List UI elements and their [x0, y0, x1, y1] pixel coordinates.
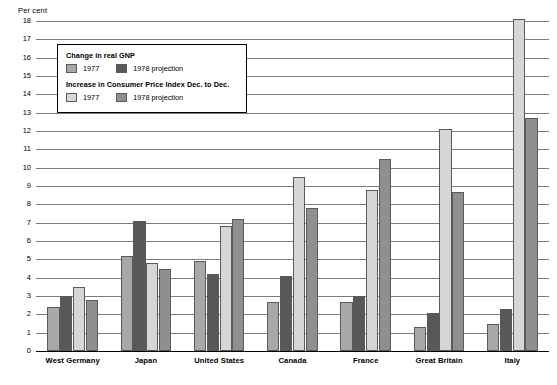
chart-legend: Change in real GNP19771978 projectionInc…	[57, 44, 247, 113]
bar	[366, 190, 378, 351]
y-tick-label: 7	[27, 219, 31, 227]
x-axis-category-labels: West GermanyJapanUnited StatesCanadaFran…	[36, 356, 549, 376]
bar	[232, 219, 244, 351]
y-tick-label: 14	[23, 90, 31, 98]
bar	[267, 302, 279, 352]
category-label: Great Britain	[402, 356, 475, 365]
y-tick-label: 3	[27, 292, 31, 300]
bar	[133, 221, 145, 351]
legend-entry-label: 1978 projection	[133, 64, 183, 73]
bar	[293, 177, 305, 351]
category-label: Italy	[476, 356, 549, 365]
bar	[340, 302, 352, 352]
y-tick-label: 15	[23, 72, 31, 80]
legend-entry-label: 1977	[83, 93, 99, 102]
y-axis-unit-label: Per cent	[18, 6, 47, 15]
bar	[194, 261, 206, 351]
legend-swatch-icon	[66, 64, 77, 73]
bar	[452, 192, 464, 352]
bar-group	[414, 21, 465, 351]
bar	[379, 159, 391, 352]
y-tick-label: 6	[27, 237, 31, 245]
bar-chart: Per cent 0123456789101112131415161718 We…	[0, 0, 557, 385]
bar	[427, 313, 439, 352]
bar	[86, 300, 98, 351]
bar	[439, 129, 451, 351]
y-tick-label: 0	[27, 347, 31, 355]
bar	[47, 307, 59, 351]
y-tick-label: 8	[27, 200, 31, 208]
category-label: France	[329, 356, 402, 365]
bar	[207, 274, 219, 351]
bar-group	[340, 21, 391, 351]
legend-swatch-icon	[116, 64, 127, 73]
y-tick-label: 16	[23, 54, 31, 62]
bar	[159, 269, 171, 352]
y-tick-label: 11	[23, 145, 31, 153]
legend-swatch-icon	[66, 93, 77, 102]
bar	[513, 19, 525, 351]
legend-row: 19771978 projection	[66, 63, 238, 74]
y-tick-label: 12	[23, 127, 31, 135]
y-tick-label: 4	[27, 274, 31, 282]
bar	[73, 287, 85, 351]
category-label: West Germany	[36, 356, 109, 365]
bar	[146, 263, 158, 351]
bar	[306, 208, 318, 351]
y-tick-label: 13	[23, 109, 31, 117]
bar	[220, 226, 232, 351]
axis-baseline	[36, 351, 549, 352]
bar	[414, 327, 426, 351]
y-tick-label: 5	[27, 255, 31, 263]
category-label: United States	[183, 356, 256, 365]
y-tick-label: 18	[23, 17, 31, 25]
bar-group	[267, 21, 318, 351]
bar	[525, 118, 537, 351]
bar	[487, 324, 499, 352]
bar	[500, 309, 512, 351]
y-tick-label: 1	[27, 329, 31, 337]
legend-entry-label: 1978 projection	[133, 93, 183, 102]
bar	[280, 276, 292, 351]
category-label: Canada	[256, 356, 329, 365]
y-axis-tick-labels: 0123456789101112131415161718	[0, 21, 36, 351]
legend-entry[interactable]: 1978 projection	[116, 93, 183, 102]
category-label: Japan	[109, 356, 182, 365]
y-tick-label: 10	[23, 164, 31, 172]
bar	[60, 296, 72, 351]
legend-row: 19771978 projection	[66, 92, 238, 103]
legend-section-title: Change in real GNP	[66, 51, 238, 60]
y-tick-label: 9	[27, 182, 31, 190]
y-tick-label: 2	[27, 310, 31, 318]
y-tick-label: 17	[23, 35, 31, 43]
legend-entry[interactable]: 1978 projection	[116, 64, 183, 73]
legend-entry-label: 1977	[83, 64, 99, 73]
legend-section-title: Increase in Consumer Price Index Dec. to…	[66, 80, 238, 89]
legend-entry[interactable]: 1977	[66, 93, 99, 102]
legend-swatch-icon	[116, 93, 127, 102]
bar-group	[487, 21, 538, 351]
bar	[353, 296, 365, 351]
bar	[121, 256, 133, 351]
legend-entry[interactable]: 1977	[66, 64, 99, 73]
